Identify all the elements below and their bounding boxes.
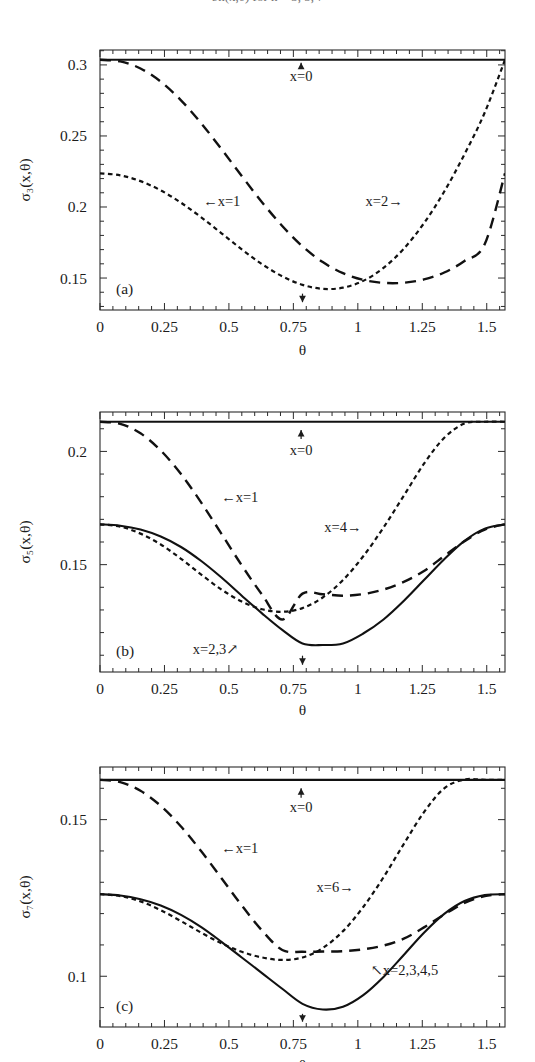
x-tick-label: 0 (96, 1035, 104, 1052)
x-zero-label: x=0 (290, 799, 313, 815)
y-tick-label: 0.2 (68, 443, 87, 460)
x-tick-label: 1.5 (477, 1035, 497, 1052)
panel-tag: (b) (116, 642, 134, 660)
x-tick-label: 1.5 (477, 680, 497, 697)
y-tick-label: 0.15 (60, 811, 87, 828)
panel-b: 00.250.50.7511.251.50.150.2(b)σ₅(x,θ)θx=… (0, 372, 535, 717)
x-two-label: x=2→ (366, 193, 403, 209)
panel-tag: (a) (116, 280, 133, 298)
x-tick-label: 0.5 (219, 1035, 239, 1052)
x-axis-title: θ (299, 1056, 306, 1062)
x-tick-label: 0 (96, 680, 104, 697)
x-zero-label: x=0 (290, 68, 313, 84)
y-tick-label: 0.15 (60, 270, 87, 287)
minimum-marker-head (299, 296, 306, 303)
x-two-three-label: x=2,3↗ (193, 641, 239, 657)
x-four-label: x=4→ (324, 519, 361, 535)
x-zero-label-head (298, 63, 305, 69)
x-one-label: ←x=1 (203, 193, 240, 209)
y-tick-label: 0.25 (60, 127, 87, 144)
panel-a-chart: 00.250.50.7511.251.50.150.20.250.3(a)σ₃(… (0, 18, 535, 363)
x-zero-label-head (298, 788, 305, 795)
minimum-marker-head (299, 658, 306, 665)
y-tick-label: 0.1 (68, 968, 87, 985)
x-tick-label: 0.5 (219, 318, 239, 335)
x-tick-label: 1 (354, 1035, 362, 1052)
x-zero-label: x=0 (290, 442, 313, 458)
y-tick-label: 0.3 (68, 56, 88, 73)
x-two-five-label: ↖x=2,3,4,5 (371, 962, 438, 978)
series-curve (100, 60, 505, 289)
x-six-label: x=6→ (317, 879, 354, 895)
x-tick-label: 0 (96, 318, 104, 335)
x-axis-title: θ (299, 701, 306, 717)
panel-c-chart: 00.250.50.7511.251.50.10.15(c)σ₇(x,θ)θx=… (0, 727, 535, 1062)
x-tick-label: 1.25 (409, 1035, 436, 1052)
x-tick-label: 1.25 (409, 680, 436, 697)
x-zero-label-head (298, 430, 305, 436)
y-axis-title: σ₇(x,θ) (16, 875, 34, 918)
clipped-caption-text: σn(x,θ) for n = 3, 5, 7 (0, 0, 535, 5)
x-tick-label: 0.25 (151, 1035, 178, 1052)
x-tick-label: 0.5 (219, 680, 239, 697)
x-one-label: ←x=1 (221, 840, 258, 856)
panel-tag: (c) (116, 997, 133, 1015)
panel-a: 00.250.50.7511.251.50.150.20.250.3(a)σ₃(… (0, 18, 535, 363)
minimum-marker-head (299, 1015, 306, 1022)
x-tick-label: 1 (354, 318, 362, 335)
y-tick-label: 0.15 (60, 556, 87, 573)
x-tick-label: 1.5 (477, 318, 497, 335)
x-tick-label: 0.75 (280, 680, 307, 697)
plot-frame (100, 50, 505, 310)
panel-c: 00.250.50.7511.251.50.10.15(c)σ₇(x,θ)θx=… (0, 727, 535, 1062)
x-tick-label: 1 (354, 680, 362, 697)
y-axis-title: σ₃(x,θ) (16, 158, 34, 201)
x-tick-label: 1.25 (409, 318, 436, 335)
x-one-label: ←x=1 (221, 489, 258, 505)
clipped-caption: σn(x,θ) for n = 3, 5, 7 (0, 0, 535, 14)
x-tick-label: 0.75 (280, 318, 307, 335)
x-tick-label: 0.75 (280, 1035, 307, 1052)
figure-root: σn(x,θ) for n = 3, 5, 7 00.250.50.7511.2… (0, 0, 535, 1062)
series-curve (100, 60, 505, 283)
series-curve (100, 524, 505, 645)
x-tick-label: 0.25 (151, 680, 178, 697)
y-tick-label: 0.2 (68, 198, 87, 215)
x-axis-title: θ (299, 341, 306, 358)
panel-b-chart: 00.250.50.7511.251.50.150.2(b)σ₅(x,θ)θx=… (0, 372, 535, 717)
y-axis-title: σ₅(x,θ) (16, 520, 34, 563)
x-tick-label: 0.25 (151, 318, 178, 335)
